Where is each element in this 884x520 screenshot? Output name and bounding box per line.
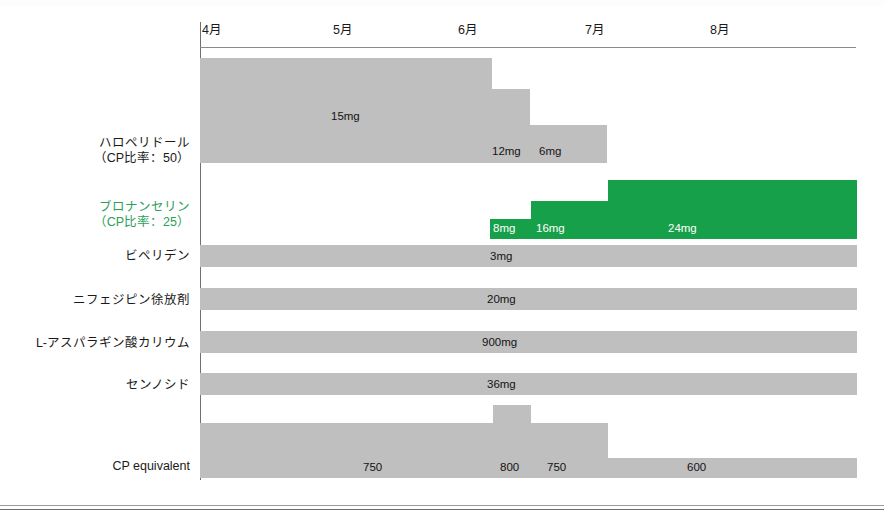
- row-label-nifedipine: ニフェジピン徐放剤: [0, 293, 190, 308]
- row-label-aspartate: L-アスパラギン酸カリウム: [0, 336, 190, 351]
- row-label-blonanserin-name: ブロナンセリン: [0, 200, 190, 215]
- row-label-biperiden-name: ビペリデン: [0, 249, 190, 264]
- value-label-nifedipine-20mg: 20mg: [487, 293, 516, 305]
- value-label-haloperidol-15mg: 15mg: [331, 110, 360, 122]
- row-label-haloperidol-name: ハロペリドール: [0, 136, 190, 151]
- bar-segment-haloperidol-6mg: [530, 125, 607, 163]
- x-axis-tick-august: 8月: [710, 24, 730, 37]
- row-label-blonanserin: ブロナンセリン （CP比率：25）: [0, 200, 190, 230]
- row-label-cp-equivalent: CP equivalent: [0, 459, 190, 474]
- bar-segment-cp-600: [608, 458, 857, 478]
- row-label-biperiden: ビペリデン: [0, 249, 190, 264]
- medication-timeline-chart: 4月 5月 6月 7月 8月 ハロペリドール （CP比率：50） 15mg 12…: [0, 0, 884, 520]
- row-label-blonanserin-ratio: （CP比率：25）: [0, 215, 190, 230]
- row-label-haloperidol-ratio: （CP比率：50）: [0, 151, 190, 166]
- value-label-blonanserin-8mg: 8mg: [493, 222, 515, 234]
- bar-segment-biperiden-3mg: [200, 245, 857, 267]
- top-margin: [0, 0, 884, 6]
- bar-segment-nifedipine-20mg: [200, 288, 857, 310]
- row-label-haloperidol: ハロペリドール （CP比率：50）: [0, 136, 190, 166]
- value-label-haloperidol-6mg: 6mg: [539, 145, 561, 157]
- value-label-aspartate-900mg: 900mg: [482, 336, 517, 348]
- x-axis-tick-april: 4月: [202, 24, 222, 37]
- value-label-biperiden-3mg: 3mg: [490, 250, 512, 262]
- x-axis-tick-may: 5月: [333, 24, 353, 37]
- bar-segment-aspartate-900mg: [200, 331, 857, 353]
- row-label-sennoside-name: センノシド: [0, 378, 190, 393]
- value-label-cp-750-first: 750: [363, 461, 382, 473]
- value-label-blonanserin-16mg: 16mg: [536, 222, 565, 234]
- row-label-nifedipine-name: ニフェジピン徐放剤: [0, 293, 190, 308]
- value-label-haloperidol-12mg: 12mg: [492, 145, 521, 157]
- row-label-cp-equivalent-name: CP equivalent: [0, 459, 190, 474]
- bar-segment-blonanserin-24mg: [608, 180, 857, 239]
- footer-rule-lower: [0, 509, 884, 510]
- row-label-sennoside: センノシド: [0, 378, 190, 393]
- x-axis-line: [200, 47, 856, 48]
- footer-rule-upper: [0, 505, 884, 506]
- value-label-cp-800: 800: [500, 461, 519, 473]
- x-axis-tick-june: 6月: [458, 24, 478, 37]
- bar-segment-cp-750-second: [531, 423, 608, 478]
- value-label-cp-750-second: 750: [547, 461, 566, 473]
- x-axis-tick-july: 7月: [585, 24, 605, 37]
- value-label-sennoside-36mg: 36mg: [487, 378, 516, 390]
- value-label-cp-600: 600: [687, 461, 706, 473]
- bar-segment-sennoside-36mg: [200, 373, 857, 395]
- value-label-blonanserin-24mg: 24mg: [668, 222, 697, 234]
- bar-segment-cp-750-first: [200, 423, 493, 478]
- row-label-aspartate-name: L-アスパラギン酸カリウム: [0, 336, 190, 351]
